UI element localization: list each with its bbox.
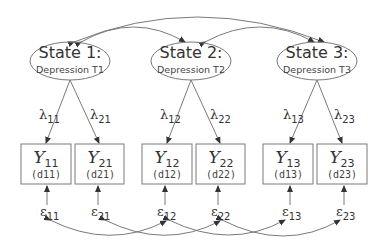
indicator-label-y21: Y21	[75, 149, 125, 169]
indicator-code-d11: (d11)	[21, 170, 71, 180]
indicator-code-d13: (d13)	[263, 170, 313, 180]
state-3-subtitle: Depression T3	[277, 65, 357, 75]
state-1-title: State 1:	[30, 45, 110, 61]
error-covariance-arc-11-12	[50, 220, 166, 235]
error-label-23: ε23	[336, 205, 355, 222]
indicator-code-d22: (d22)	[196, 170, 246, 180]
covariance-arc-s2-s3	[205, 27, 314, 42]
sem-diagram: State 1: Depression T1 State 2: Depressi…	[0, 0, 385, 245]
indicator-label-y12: Y12	[142, 149, 192, 169]
indicator-code-d23: (d23)	[317, 170, 367, 180]
indicator-code-d21: (d21)	[75, 170, 125, 180]
loading-label-11: λ11	[39, 108, 60, 125]
error-label-22: ε22	[211, 205, 230, 222]
indicator-code-d12: (d12)	[142, 170, 192, 180]
error-label-12: ε12	[157, 205, 176, 222]
covariance-arc-s1-s2	[81, 27, 185, 42]
loading-label-12: λ12	[160, 108, 181, 125]
loading-label-21: λ21	[90, 108, 111, 125]
error-label-21: ε21	[91, 205, 110, 222]
loading-label-23: λ23	[334, 108, 355, 125]
indicator-label-y11: Y11	[21, 149, 71, 169]
state-2-subtitle: Depression T2	[151, 65, 231, 75]
indicator-label-y23: Y23	[317, 149, 367, 169]
state-3-title: State 3:	[277, 45, 357, 61]
error-label-13: ε13	[282, 205, 301, 222]
indicator-label-y13: Y13	[263, 149, 313, 169]
loading-label-13: λ13	[283, 108, 304, 125]
loading-label-22: λ22	[210, 108, 231, 125]
state-2-title: State 2:	[151, 45, 231, 61]
state-1-subtitle: Depression T1	[30, 65, 110, 75]
error-label-11: ε11	[40, 205, 59, 222]
indicator-label-y22: Y22	[196, 149, 246, 169]
